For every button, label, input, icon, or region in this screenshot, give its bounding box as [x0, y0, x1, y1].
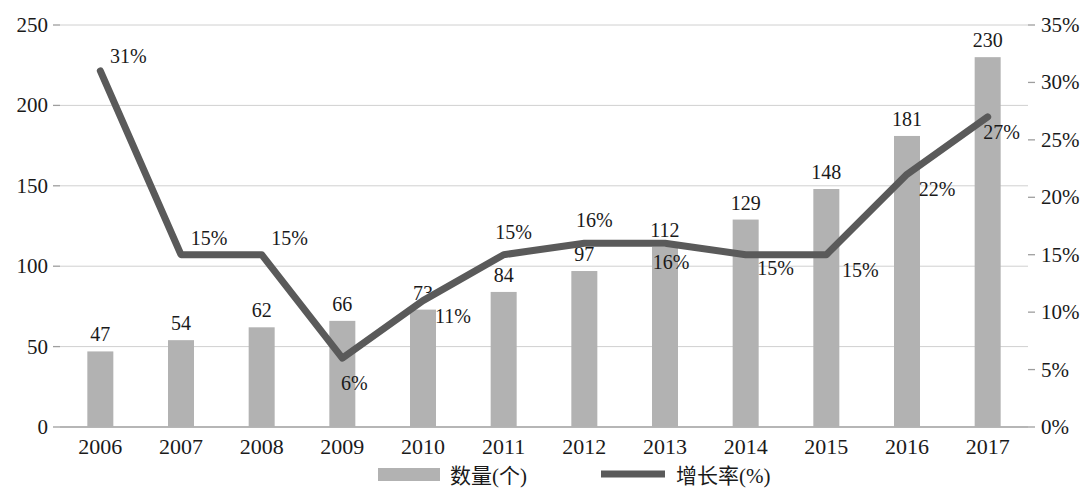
category-tick-label: 2006	[78, 434, 122, 459]
right-axis-tick-label: 5%	[1041, 358, 1069, 382]
category-tick-label: 2013	[643, 434, 687, 459]
bar	[813, 189, 839, 427]
bar	[652, 247, 678, 427]
category-tick-label: 2016	[885, 434, 929, 459]
right-axis-tick-label: 20%	[1041, 185, 1080, 209]
bar-value-label: 47	[90, 323, 110, 345]
line-value-label: 22%	[919, 178, 956, 200]
left-axis-tick-label: 50	[27, 335, 48, 359]
right-axis-tick-label: 30%	[1041, 70, 1080, 94]
line-series-group	[100, 71, 987, 358]
growth-rate-line	[100, 71, 987, 358]
bar-value-label: 181	[892, 108, 922, 130]
bar	[975, 57, 1001, 427]
bar	[491, 292, 517, 427]
left-axis-tick-label: 200	[17, 93, 49, 117]
line-value-label: 15%	[495, 221, 532, 243]
right-axis-tick-label: 35%	[1041, 13, 1080, 37]
line-value-label: 15%	[271, 227, 308, 249]
legend: 数量(个)增长率(%)	[378, 464, 770, 488]
left-axis-tick-label: 250	[17, 13, 49, 37]
bar-value-label: 84	[494, 264, 514, 286]
category-tick-label: 2014	[724, 434, 768, 459]
legend-swatch-bar	[378, 468, 440, 481]
category-tick-label: 2017	[966, 434, 1010, 459]
dual-axis-bar-line-chart: 050100150200250 0%5%10%15%20%25%30%35% 2…	[0, 0, 1089, 494]
right-axis-tick-label: 10%	[1041, 300, 1080, 324]
category-tick-label: 2010	[401, 434, 445, 459]
bar-value-label: 230	[973, 29, 1003, 51]
line-value-labels-group: 31%15%15%6%11%15%16%16%15%15%22%27%	[110, 45, 1020, 394]
right-axis-tick-label: 0%	[1041, 415, 1069, 439]
right-axis-group: 0%5%10%15%20%25%30%35%	[1028, 13, 1080, 439]
bar-value-labels-group: 47546266738497112129148181230	[90, 29, 1002, 345]
bar-value-label: 62	[252, 299, 272, 321]
left-axis-group: 050100150200250	[17, 13, 61, 439]
right-axis-tick-label: 15%	[1041, 243, 1080, 267]
line-value-label: 11%	[435, 305, 471, 327]
left-axis-tick-label: 0	[38, 415, 49, 439]
bar-value-label: 54	[171, 312, 191, 334]
bar	[249, 327, 275, 427]
chart-container: 050100150200250 0%5%10%15%20%25%30%35% 2…	[0, 0, 1089, 494]
line-value-label: 15%	[757, 257, 794, 279]
category-axis-group: 2006200720082009201020112012201320142015…	[78, 434, 1009, 459]
category-tick-label: 2008	[240, 434, 284, 459]
line-value-label: 16%	[576, 209, 613, 231]
left-axis-tick-label: 100	[17, 254, 49, 278]
bar-value-label: 148	[811, 161, 841, 183]
bar-value-label: 129	[731, 192, 761, 214]
line-value-label: 15%	[842, 259, 879, 281]
bar	[168, 340, 194, 427]
line-value-label: 15%	[191, 227, 228, 249]
category-tick-label: 2011	[482, 434, 525, 459]
category-tick-label: 2012	[562, 434, 606, 459]
bar-value-label: 112	[650, 219, 679, 241]
line-value-label: 6%	[341, 372, 368, 394]
bar	[410, 310, 436, 427]
bar	[87, 351, 113, 427]
legend-label-growth-rate: 增长率(%)	[676, 464, 770, 488]
left-axis-tick-label: 150	[17, 174, 49, 198]
category-tick-label: 2015	[804, 434, 848, 459]
line-value-label: 27%	[983, 121, 1020, 143]
right-axis-tick-label: 25%	[1041, 128, 1080, 152]
line-value-label: 31%	[110, 45, 147, 67]
category-tick-label: 2009	[320, 434, 364, 459]
line-value-label: 16%	[653, 251, 690, 273]
legend-label-quantity: 数量(个)	[450, 464, 527, 488]
bar-value-label: 66	[332, 293, 352, 315]
category-tick-label: 2007	[159, 434, 203, 459]
bar	[571, 271, 597, 427]
